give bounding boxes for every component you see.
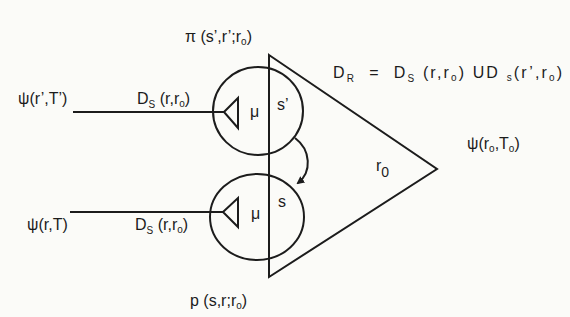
lower-synapse-icon — [223, 198, 238, 227]
triangle-label: r0 — [376, 157, 389, 180]
lower-input-label: ψ(r,T) — [27, 216, 68, 233]
upper-input-label: ψ(r’,T’) — [18, 90, 67, 107]
upper-ds-label: DS (r,ro) — [137, 90, 190, 110]
transition-arrow — [295, 138, 308, 183]
output-label: ψ(ro,To) — [467, 135, 520, 154]
upper-state-label: s’ — [277, 96, 289, 113]
domain-equation: DR = DS (r,ro) UD s(r’,ro) — [333, 64, 562, 84]
bottom-joint-label: p (s,r;ro) — [190, 292, 247, 311]
lower-mu-label: μ — [251, 205, 260, 222]
upper-mu-label: μ — [250, 103, 259, 120]
upper-synapse-icon — [224, 98, 238, 128]
lower-state-label: s — [278, 193, 286, 210]
lower-ds-label: DS (r,ro) — [135, 216, 188, 236]
top-joint-label: π (s’,r’;ro) — [185, 28, 252, 47]
neuron-diagram: π (s’,r’;ro) p (s,r;ro) ψ(r’,T’) ψ(r,T) … — [0, 0, 570, 317]
